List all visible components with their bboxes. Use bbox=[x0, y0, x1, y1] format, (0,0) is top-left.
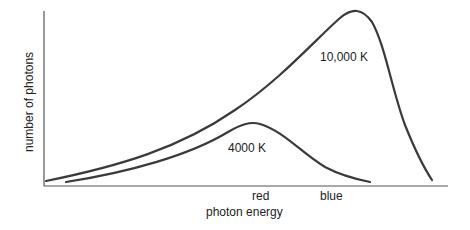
x-tick-blue: blue bbox=[320, 189, 343, 203]
y-axis-label: number of photons bbox=[22, 52, 36, 152]
curve-4000k bbox=[66, 123, 370, 182]
x-tick-red: red bbox=[252, 189, 269, 203]
curve-10000k bbox=[46, 11, 432, 181]
x-axis-label: photon energy bbox=[206, 205, 283, 219]
label-10000k: 10,000 K bbox=[320, 50, 368, 64]
label-4000k: 4000 K bbox=[228, 141, 266, 155]
blackbody-chart: 10,000 K 4000 K red blue photon energy n… bbox=[0, 0, 470, 230]
